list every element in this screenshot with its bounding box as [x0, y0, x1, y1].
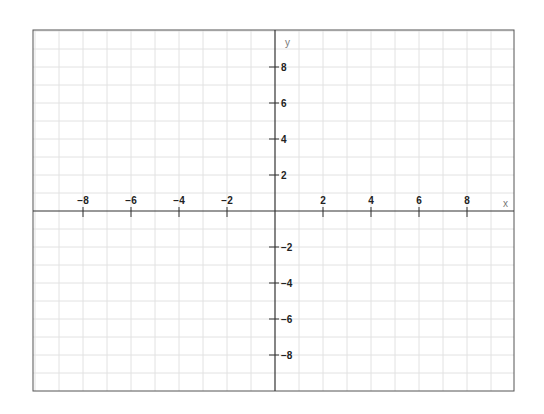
y-tick-label: −2	[281, 242, 293, 253]
y-tick-label: −4	[281, 278, 293, 289]
x-tick-label: 6	[416, 195, 422, 206]
x-axis-label: x	[503, 198, 508, 209]
y-tick-label: 2	[281, 170, 287, 181]
y-axis-label: y	[285, 37, 290, 48]
x-tick-label: 8	[464, 195, 470, 206]
coordinate-plane: −8−6−4−224688642−2−4−6−8 x y	[0, 0, 544, 414]
x-tick-label: −6	[125, 195, 137, 206]
x-tick-label: −4	[173, 195, 185, 206]
y-tick-label: 8	[281, 62, 287, 73]
x-tick-label: 4	[368, 195, 374, 206]
y-tick-label: −8	[281, 350, 293, 361]
y-tick-label: −6	[281, 314, 293, 325]
y-tick-label: 4	[281, 134, 287, 145]
x-tick-label: −2	[221, 195, 233, 206]
x-tick-label: 2	[320, 195, 326, 206]
y-tick-label: 6	[281, 98, 287, 109]
x-tick-label: −8	[77, 195, 89, 206]
